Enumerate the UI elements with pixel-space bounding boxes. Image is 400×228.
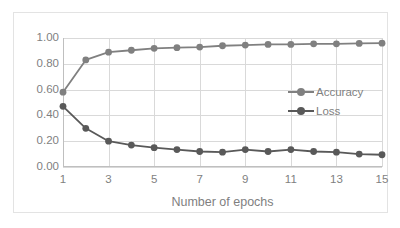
chart-container: 0.000.200.400.600.801.00 Accuracy Loss 1… xyxy=(13,12,388,213)
legend-marker-loss-icon xyxy=(288,106,314,116)
data-point xyxy=(242,146,249,153)
y-axis-tick-label: 0.40 xyxy=(23,110,59,122)
data-point xyxy=(356,151,363,158)
y-axis-tick-label: 0.60 xyxy=(23,84,59,96)
data-point xyxy=(60,89,67,96)
data-point xyxy=(333,149,340,156)
data-point xyxy=(82,125,89,132)
data-point xyxy=(151,45,158,52)
data-point xyxy=(60,103,67,110)
x-axis-tick-label: 7 xyxy=(197,174,203,186)
x-axis-tick-label: 5 xyxy=(151,174,157,186)
data-point xyxy=(333,40,340,47)
data-point xyxy=(265,41,272,48)
chart-legend: Accuracy Loss xyxy=(288,82,368,120)
legend-item-loss: Loss xyxy=(288,101,368,120)
data-point xyxy=(174,44,181,51)
data-point xyxy=(105,49,112,56)
data-point xyxy=(128,142,135,149)
x-axis-tick-label: 9 xyxy=(242,174,248,186)
gridline-vertical xyxy=(382,38,383,167)
data-point xyxy=(105,138,112,145)
legend-marker-accuracy-icon xyxy=(288,87,314,97)
y-axis-tick-label: 0.00 xyxy=(23,161,59,173)
data-point xyxy=(310,40,317,47)
data-point xyxy=(174,146,181,153)
data-point xyxy=(310,148,317,155)
data-point xyxy=(242,42,249,49)
data-point xyxy=(265,148,272,155)
y-axis-tick-label: 0.80 xyxy=(23,58,59,70)
y-axis-tick-label: 0.20 xyxy=(23,135,59,147)
data-point xyxy=(196,44,203,51)
data-point xyxy=(287,41,294,48)
data-point xyxy=(219,149,226,156)
data-point xyxy=(219,42,226,49)
x-axis-tick-label: 13 xyxy=(330,174,343,186)
legend-item-accuracy: Accuracy xyxy=(288,82,368,101)
data-point xyxy=(379,40,386,47)
data-point xyxy=(356,40,363,47)
plot-area: Accuracy Loss xyxy=(63,38,382,167)
gridline-horizontal xyxy=(63,167,382,168)
x-axis-tick-labels: 13579111315 xyxy=(63,174,382,190)
x-axis-tick-label: 11 xyxy=(285,174,297,186)
y-axis-tick-labels: 0.000.200.400.600.801.00 xyxy=(18,38,59,167)
data-point xyxy=(379,151,386,158)
x-axis-title: Number of epochs xyxy=(63,195,382,209)
data-point xyxy=(287,146,294,153)
data-point xyxy=(151,144,158,151)
x-axis-tick-label: 3 xyxy=(105,174,111,186)
data-point xyxy=(128,47,135,54)
data-point xyxy=(196,148,203,155)
data-point xyxy=(82,57,89,64)
x-axis-tick-label: 1 xyxy=(60,174,66,186)
legend-label-loss: Loss xyxy=(316,105,340,117)
x-axis-tick-label: 15 xyxy=(376,174,389,186)
y-axis-tick-label: 1.00 xyxy=(23,32,59,44)
legend-label-accuracy: Accuracy xyxy=(316,86,363,98)
